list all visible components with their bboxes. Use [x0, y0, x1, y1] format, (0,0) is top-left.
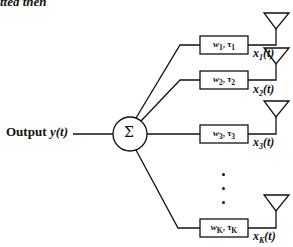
branch-line-1 [136, 45, 200, 118]
beamformer-diagram: tted then Output y(t) Σ w1, τ1 w2, τ2 w3… [0, 0, 293, 247]
signal-label-3: x3(t) [253, 135, 274, 151]
antenna-feed-1 [248, 29, 276, 45]
antenna-feed-k [248, 211, 276, 228]
signal-label-2: x2(t) [253, 82, 274, 98]
ellipsis-dot-1 [222, 173, 225, 176]
output-label: Output [6, 124, 46, 140]
antenna-icon-3 [264, 101, 289, 117]
antenna-icon-k [264, 195, 289, 211]
branch-line-2 [141, 80, 200, 121]
ellipsis-dot-3 [222, 201, 225, 204]
box-label-1: w1, τ1 [200, 39, 248, 52]
antenna-feed-2 [248, 64, 276, 80]
antenna-feed-3 [248, 117, 276, 134]
antenna-icon-1 [264, 13, 289, 29]
ellipsis-dot-2 [222, 187, 225, 190]
signal-label-k: xK(t) [253, 229, 276, 245]
box-label-2: w2, τ2 [200, 74, 248, 87]
signal-label-1: x1(t) [253, 46, 274, 62]
header-partial-text: tted then [0, 0, 47, 10]
sigma-symbol: Σ [124, 124, 134, 140]
output-signal: y(t) [50, 124, 68, 140]
branch-line-k [136, 150, 200, 228]
box-label-k: wK, τK [200, 222, 248, 235]
box-label-3: w3, τ3 [200, 128, 248, 141]
